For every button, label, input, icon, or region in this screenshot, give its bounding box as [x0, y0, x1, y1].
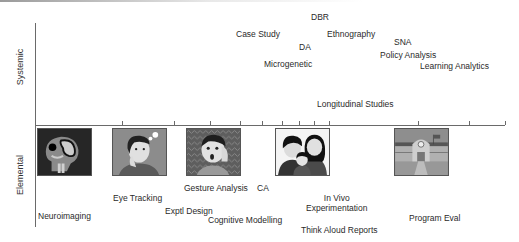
axis-tick: [240, 121, 241, 125]
method-label: Think Aloud Reports: [301, 225, 378, 235]
method-label: SNA: [394, 37, 411, 47]
axis-tick: [299, 121, 300, 125]
axis-tick: [174, 121, 175, 125]
axis-label-systemic: Systemic: [15, 47, 25, 87]
method-label: DA: [299, 42, 311, 52]
method-label: Program Eval: [409, 213, 461, 223]
axis-tick: [314, 121, 315, 125]
family-image: [275, 128, 330, 176]
method-label: Microgenetic: [264, 59, 312, 69]
brain-scan-image: [37, 128, 92, 176]
method-label: DBR: [311, 12, 329, 22]
horizontal-axis: [35, 125, 505, 126]
axis-tick: [329, 121, 330, 125]
method-label: Ethnography: [327, 29, 375, 39]
method-label: Neuroimaging: [38, 211, 91, 221]
axis-tick: [282, 121, 283, 125]
axis-tick: [262, 121, 263, 125]
method-label: Gesture Analysis: [184, 183, 248, 193]
method-label: CA: [257, 183, 269, 193]
thinking-person-image: [112, 128, 167, 176]
method-label: Learning Analytics: [420, 61, 489, 71]
top-edge-shade: [0, 0, 519, 2]
axis-tick: [210, 121, 211, 125]
axis-tick: [418, 121, 419, 125]
method-label: Policy Analysis: [380, 50, 436, 60]
axis-tick: [122, 121, 123, 125]
method-label: Longitudinal Studies: [317, 99, 394, 109]
axis-tick: [469, 121, 470, 125]
school-building-image: [394, 128, 449, 176]
axis-tick: [505, 121, 506, 125]
method-label: Exptl Design: [165, 206, 213, 216]
method-label: Case Study: [236, 29, 280, 39]
method-label: Eye Tracking: [113, 193, 162, 203]
surprised-person-image: [186, 128, 241, 176]
method-label: Cognitive Modelling: [208, 215, 282, 225]
axis-label-elemental: Elemental: [15, 153, 25, 197]
method-label: In Vivo Experimentation: [306, 193, 367, 213]
